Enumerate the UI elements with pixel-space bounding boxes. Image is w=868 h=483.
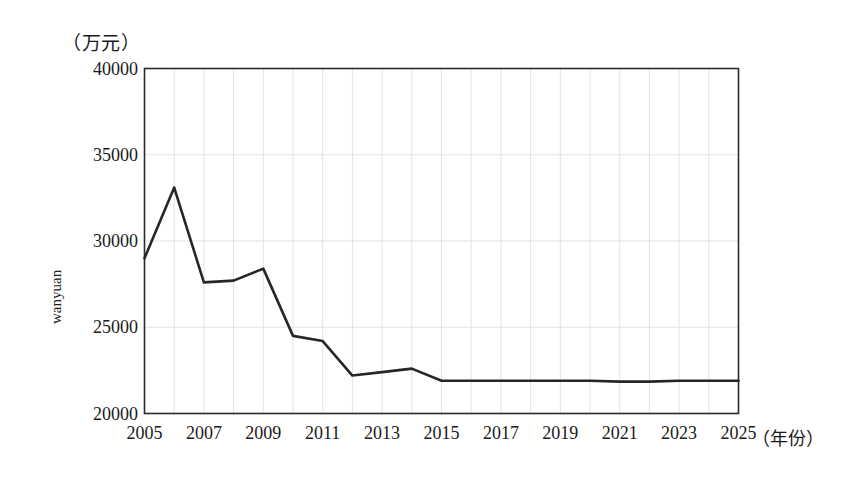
chart-figure: （万元） wanyuan （年份） 2000025000300003500040… (0, 0, 868, 483)
line-chart-plot (0, 0, 868, 483)
gridlines (145, 69, 739, 414)
